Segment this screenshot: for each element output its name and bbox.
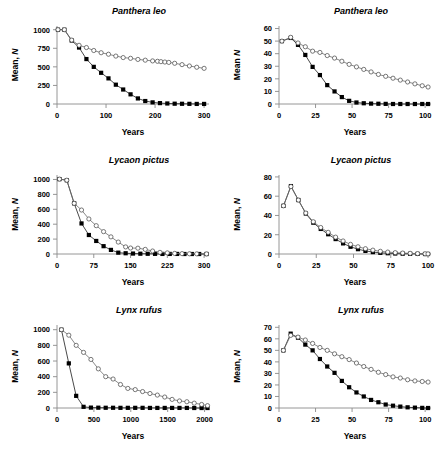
data-point: [187, 64, 191, 68]
data-point: [390, 102, 394, 106]
x-tick-label: 75: [384, 111, 392, 120]
data-point: [128, 246, 132, 250]
data-point: [109, 235, 113, 239]
y-tick-label: 20: [263, 381, 271, 390]
data-point: [170, 397, 174, 401]
data-point: [398, 405, 402, 409]
data-point: [310, 49, 314, 53]
data-point: [114, 83, 118, 87]
data-point: [405, 80, 409, 84]
x-tick-label: 100: [421, 261, 434, 270]
data-point: [303, 343, 307, 347]
data-point: [159, 60, 163, 64]
data-point: [361, 364, 365, 368]
y-axis-title: Mean, N: [10, 48, 20, 81]
data-point: [303, 45, 307, 49]
data-point: [339, 355, 343, 359]
panel-title: Lycaon pictus: [330, 155, 391, 165]
series-filled-squares: [56, 28, 206, 106]
data-point: [118, 382, 122, 386]
data-point: [163, 60, 167, 64]
y-tick-label: 1000: [33, 26, 50, 35]
data-point: [126, 386, 130, 390]
data-point: [170, 406, 174, 410]
x-tick-label: 0: [55, 111, 59, 120]
data-point: [390, 76, 394, 80]
data-point: [116, 251, 120, 255]
data-point: [195, 65, 199, 69]
y-tick-label: 50: [263, 346, 271, 355]
y-tick-label: 10: [263, 392, 271, 401]
series-filled-squares: [281, 184, 430, 256]
y-tick-label: 400: [37, 372, 50, 381]
data-point: [310, 348, 314, 352]
data-point: [347, 385, 351, 389]
data-point: [295, 335, 299, 339]
data-point: [84, 45, 88, 49]
data-point: [173, 251, 177, 255]
panel-lynx-rufus-100: Lynx rufus0255075100010203040506070Years…: [222, 299, 443, 449]
data-point: [187, 102, 191, 106]
x-axis-title: Years: [343, 277, 366, 287]
data-point: [281, 204, 285, 208]
y-tick-label: 0: [267, 250, 271, 259]
data-point: [425, 380, 429, 384]
data-point: [136, 96, 140, 100]
x-axis-title: Years: [122, 431, 145, 441]
data-point: [332, 371, 336, 375]
series-open-circles: [281, 184, 430, 256]
x-tick-label: 100: [418, 415, 431, 424]
svg-text:Mean, N: Mean, N: [10, 197, 20, 230]
data-point: [96, 367, 100, 371]
data-point: [70, 38, 74, 42]
data-point: [180, 63, 184, 67]
x-tick-label: 500: [88, 415, 101, 424]
y-axis-title: Mean, N: [10, 349, 20, 382]
data-point: [333, 235, 337, 239]
data-point: [420, 379, 424, 383]
data-point: [378, 249, 382, 253]
data-point: [325, 83, 329, 87]
data-point: [87, 233, 91, 237]
data-point: [106, 52, 110, 56]
data-point: [57, 177, 61, 181]
svg-text:Mean, N: Mean, N: [232, 197, 242, 230]
data-point: [376, 102, 380, 106]
data-point: [325, 53, 329, 57]
data-point: [354, 390, 358, 394]
data-point: [128, 92, 132, 96]
data-point: [101, 230, 105, 234]
y-tick-label: 400: [37, 220, 50, 229]
x-tick-label: 0: [276, 261, 280, 270]
panel-lycaon-pictus-100: Lycaon pictus0255075100020406080YearsMea…: [222, 149, 443, 299]
data-point: [62, 28, 66, 32]
x-tick-label: 1000: [122, 415, 139, 424]
data-point: [138, 252, 142, 256]
y-tick-label: 30: [263, 369, 271, 378]
svg-text:Mean, N: Mean, N: [10, 48, 20, 81]
data-point: [376, 72, 380, 76]
data-point: [133, 406, 137, 410]
data-point: [390, 375, 394, 379]
data-point: [398, 78, 402, 82]
data-point: [74, 343, 78, 347]
data-point: [158, 250, 162, 254]
data-point: [89, 406, 93, 410]
data-point: [151, 59, 155, 63]
data-point: [77, 43, 81, 47]
data-point: [106, 76, 110, 80]
data-point: [398, 376, 402, 380]
x-tick-label: 225: [161, 261, 174, 270]
data-point: [303, 53, 307, 57]
x-tick-label: 200: [149, 111, 162, 120]
data-point: [361, 394, 365, 398]
y-axis-title: Mean, N: [232, 197, 242, 230]
data-point: [420, 102, 424, 106]
data-point: [84, 57, 88, 61]
y-tick-label: 800: [37, 341, 50, 350]
data-point: [136, 57, 140, 61]
series-filled-squares: [59, 328, 209, 411]
data-point: [187, 252, 191, 256]
data-point: [81, 405, 85, 409]
x-tick-label: 0: [55, 261, 59, 270]
